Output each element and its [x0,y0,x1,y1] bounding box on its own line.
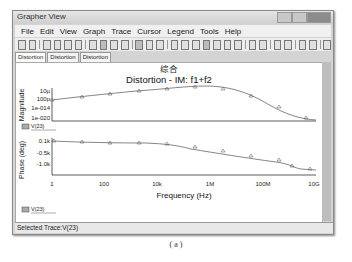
legend-icon[interactable] [259,40,267,50]
overlay-icon[interactable] [121,40,129,50]
separator [167,40,168,49]
select-icon[interactable] [135,40,143,50]
plot-area[interactable]: 综合 Distortion - IM: f1+f2 Magnitude 10µ … [15,62,323,223]
points-icon[interactable] [146,40,154,50]
separator [320,40,321,49]
magnitude-trace[interactable] [52,86,316,120]
copy-icon[interactable] [64,40,72,50]
pan-icon[interactable] [234,40,242,50]
x-tick: 10G [308,181,320,187]
menu-view[interactable]: View [60,27,77,36]
zoom-area-icon[interactable] [203,40,211,50]
status-bar: Selected Trace:V(23) [15,222,333,233]
phase-markers [52,139,312,170]
trace-legend-label[interactable]: V(23) [31,123,45,129]
y-tick: 1e-020 [31,115,50,121]
y-tick: -0.5k [37,150,51,156]
menu-cursor[interactable]: Cursor [137,27,161,36]
y-tick: 10µ [40,88,51,94]
minimize-button[interactable] [277,12,292,23]
trace-legend-swatch[interactable] [22,124,29,129]
maximize-button[interactable] [292,12,307,23]
separator [85,40,86,49]
tab-distortion-2[interactable]: Distortion [47,52,78,62]
zoom-out-icon[interactable] [181,40,189,50]
grid-selected-icon[interactable] [100,40,108,50]
stop-icon[interactable] [323,40,331,50]
cut-icon[interactable] [54,40,62,50]
title-bar[interactable]: Grapher View [13,11,333,24]
close-button[interactable] [307,12,331,23]
bar-icon[interactable] [110,40,118,50]
grapher-window: Grapher View File Edit View Graph Trace … [12,10,334,235]
phase-axis-label: Phase (deg) [18,141,26,179]
chart-supertitle: 综合 [160,64,178,74]
save-icon[interactable] [29,40,37,50]
x-tick: 100 [99,181,110,187]
y-tick: -1.0k [37,161,51,167]
y-tick: 0.1k [39,138,51,144]
cursor-icon[interactable] [274,40,282,50]
x-tick: 1 [50,181,54,187]
zoom-y-icon[interactable] [224,40,232,50]
phase-trace[interactable] [52,141,316,170]
x-tick: 10k [152,181,163,187]
figure-caption: ( a ) [0,240,352,249]
x-tick: 100M [255,181,270,187]
y-tick: 100p [37,96,51,102]
open-icon[interactable] [18,40,26,50]
trace-icon[interactable] [284,40,292,50]
vertical-scrollbar[interactable] [322,62,331,221]
tab-distortion-3[interactable]: Distortion [80,52,111,62]
magnitude-axis-label: Magnitude [18,89,26,122]
trace-legend-swatch[interactable] [22,207,29,212]
menu-trace[interactable]: Trace [111,27,131,36]
grid-icon[interactable] [89,40,97,50]
undo-icon[interactable] [43,40,51,50]
export-icon[interactable] [299,40,307,50]
chart-title: Distortion - IM: f1+f2 [126,74,212,85]
y-tick: 1e-014 [31,105,50,111]
separator [270,40,271,49]
print-icon[interactable] [309,40,317,50]
menu-file[interactable]: File [21,27,34,36]
chart: 综合 Distortion - IM: f1+f2 Magnitude 10µ … [16,63,322,222]
separator [39,40,40,49]
menu-bar: File Edit View Graph Trace Cursor Legend… [15,25,331,37]
text-icon[interactable] [249,40,257,50]
menu-tools[interactable]: Tools [200,27,219,36]
separator [245,40,246,49]
zoom-fit-icon[interactable] [192,40,200,50]
trace-legend-label[interactable]: V(23) [31,206,45,212]
separator [132,40,133,49]
x-axis-label: Frequency (Hz) [156,191,211,200]
menu-legend[interactable]: Legend [167,27,194,36]
menu-graph[interactable]: Graph [83,27,105,36]
zoom-in-icon[interactable] [171,40,179,50]
tab-distortion-1[interactable]: Distortion [15,52,46,62]
toolbar [15,38,331,51]
paste-icon[interactable] [75,40,83,50]
magnitude-markers [50,85,308,119]
zoom-x-icon[interactable] [213,40,221,50]
lines-icon[interactable] [156,40,164,50]
menu-help[interactable]: Help [225,27,241,36]
x-tick: 1M [206,181,214,187]
window-title: Grapher View [17,12,66,21]
menu-edit[interactable]: Edit [40,27,54,36]
tab-strip: Distortion Distortion Distortion [15,52,112,62]
separator [295,40,296,49]
